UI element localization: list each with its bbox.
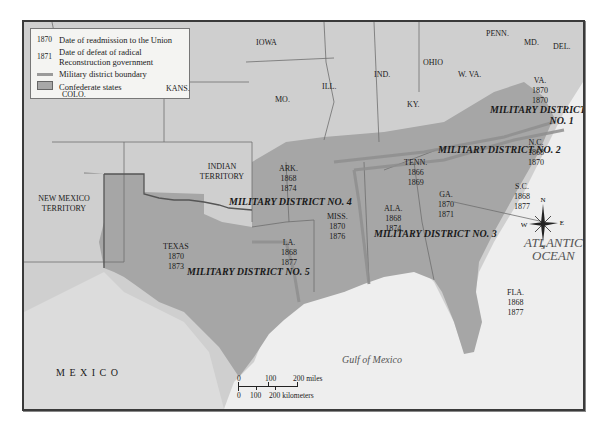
legend-label-defeat-line2: Reconstruction government <box>59 57 153 67</box>
svg-text:E: E <box>560 219 564 227</box>
legend-district-boundary: Military district boundary <box>37 69 183 79</box>
state-fla: FLA.18681877 <box>507 288 524 318</box>
label-military-district-5: MILITARY DISTRICT NO. 5 <box>187 266 310 277</box>
scale-km-0: 0 <box>237 391 241 400</box>
label-ohio: OHIO <box>423 58 443 68</box>
label-military-district-2: MILITARY DISTRICT NO. 2 <box>438 144 561 155</box>
legend-label-boundary: Military district boundary <box>59 69 147 79</box>
state-tenn: TENN.18661869 <box>404 158 427 188</box>
compass-icon: N S W E <box>521 194 565 250</box>
label-penn: PENN. <box>486 29 509 39</box>
legend-key-defeat: 1871 <box>37 52 59 62</box>
legend-label-defeat-line1: Date of defeat of radical <box>59 47 153 57</box>
label-wva: W. VA. <box>458 70 481 80</box>
state-va: VA.18701870 <box>532 76 548 106</box>
label-kans: KANS. <box>166 84 190 94</box>
label-mo: MO. <box>275 95 290 105</box>
label-indian-territory: INDIAN TERRITORY <box>192 162 252 182</box>
legend-key-readmission: 1870 <box>37 35 59 45</box>
confederate-swatch-icon <box>37 81 53 90</box>
label-military-district-4: MILITARY DISTRICT NO. 4 <box>229 196 352 207</box>
map-frame: 1870 Date of readmission to the Union 18… <box>22 20 585 411</box>
label-del: DEL. <box>553 42 571 52</box>
state-ga: GA.18701871 <box>438 190 454 220</box>
label-new-mexico-territory: NEW MEXICO TERRITORY <box>34 194 94 214</box>
scale-km-200: 200 kilometers <box>269 391 314 400</box>
state-miss: MISS.18701876 <box>327 212 348 242</box>
label-md: MD. <box>524 38 539 48</box>
label-iowa: IOWA <box>256 38 277 48</box>
legend-defeat: 1871 Date of defeat of radical Reconstru… <box>37 47 183 67</box>
label-ind: IND. <box>374 70 390 80</box>
label-ill: ILL. <box>322 82 336 92</box>
scale-miles-100: 100 <box>265 374 276 383</box>
legend-readmission: 1870 Date of readmission to the Union <box>37 35 183 45</box>
legend-label-readmission: Date of readmission to the Union <box>59 35 172 45</box>
state-la: LA.18681877 <box>281 238 297 268</box>
state-texas: TEXAS18701873 <box>163 242 189 272</box>
label-military-district-3: MILITARY DISTRICT NO. 3 <box>374 228 497 239</box>
svg-text:W: W <box>521 221 528 229</box>
svg-text:N: N <box>540 196 545 204</box>
label-colo: COLO. <box>62 90 86 100</box>
label-gulf-of-mexico: Gulf of Mexico <box>342 354 402 365</box>
boundary-line-swatch-icon <box>37 73 53 76</box>
label-mexico: M E X I C O <box>56 368 119 378</box>
svg-text:S: S <box>541 243 545 250</box>
label-ky: KY. <box>407 100 420 110</box>
scale-km-100: 100 <box>250 391 261 400</box>
state-ark: ARK.18681874 <box>279 164 298 194</box>
scale-bar: 0 100 200 miles 0 100 200 kilometers <box>237 374 347 404</box>
legend-confederate: Confederate states <box>37 81 183 93</box>
compass-rose: N S W E <box>521 194 565 250</box>
label-military-district-1: MILITARY DISTRICT NO. 1 <box>490 104 585 126</box>
